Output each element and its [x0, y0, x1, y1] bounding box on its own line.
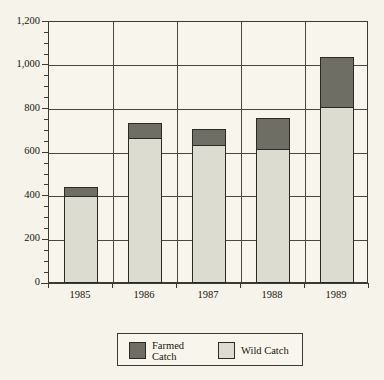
bar-segment-farmed-1986: [128, 123, 162, 139]
gridline-vertical: [113, 22, 114, 282]
x-tick: [48, 283, 49, 288]
x-tick-label-1986: 1986: [112, 290, 176, 301]
bar-segment-farmed-1987: [192, 129, 226, 146]
gridline-vertical: [177, 22, 178, 282]
bar-segment-farmed-1985: [64, 187, 98, 197]
legend-swatch-wild-icon: [218, 342, 235, 359]
y-tick-label: 1,000: [16, 59, 40, 70]
legend-entry-farmed-catch: Farmed Catch: [129, 339, 184, 362]
y-axis-labels: 1,200 1,000 800 600 400 200 0: [0, 0, 40, 380]
plot-area: [48, 21, 368, 283]
bar-segment-wild-1988: [256, 149, 290, 283]
x-tick: [240, 283, 241, 288]
x-tick: [304, 283, 305, 288]
bar-segment-wild-1986: [128, 138, 162, 283]
y-tick-label: 800: [24, 103, 40, 114]
legend-swatch-farmed-icon: [129, 342, 146, 359]
x-tick: [176, 283, 177, 288]
bar-segment-wild-1987: [192, 145, 226, 283]
x-tick-label-1985: 1985: [48, 290, 112, 301]
bar-segment-farmed-1988: [256, 118, 290, 150]
x-axis-line: [41, 283, 368, 284]
x-tick-label-1987: 1987: [176, 290, 240, 301]
gridline-vertical: [241, 22, 242, 282]
legend-entry-wild-catch: Wild Catch: [218, 339, 289, 362]
y-tick-label: 200: [24, 233, 40, 244]
bar-segment-wild-1989: [320, 107, 354, 283]
y-tick-label: 1,200: [16, 16, 40, 27]
legend: Farmed Catch Wild Catch: [117, 333, 303, 366]
x-tick-label-1989: 1989: [304, 290, 368, 301]
y-tick-label: 400: [24, 190, 40, 201]
legend-label-wild: Wild Catch: [241, 345, 289, 356]
x-tick: [368, 283, 369, 288]
bar-chart: 1,200 1,000 800 600 400 200 0: [0, 0, 384, 380]
y-tick-label: 0: [35, 277, 40, 288]
bar-segment-farmed-1989: [320, 57, 354, 108]
gridline-vertical: [305, 22, 306, 282]
x-tick: [112, 283, 113, 288]
legend-label-farmed: Farmed Catch: [152, 340, 184, 362]
x-tick-label-1988: 1988: [240, 290, 304, 301]
y-tick-label: 600: [24, 146, 40, 157]
bar-segment-wild-1985: [64, 196, 98, 283]
